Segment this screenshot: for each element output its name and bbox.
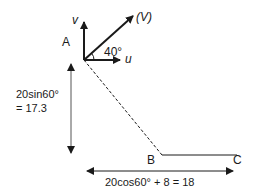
trajectory-dashed-line <box>84 60 162 155</box>
horizontal-dimension-label: 20cos60° + 8 = 18 <box>105 176 194 188</box>
V-vector-label: (V) <box>136 10 152 24</box>
v-vector-label: v <box>72 13 79 27</box>
u-vector-label: u <box>125 52 132 66</box>
point-a-label: A <box>62 35 70 49</box>
point-b-label: B <box>147 153 155 167</box>
angle-arc <box>92 53 94 60</box>
angle-label: 40° <box>104 45 122 59</box>
vertical-dimension-label-line2: = 17.3 <box>16 102 47 114</box>
velocity-diagram: A B C v u (V) 40° 20sin60° = 17.3 20cos6… <box>0 0 254 192</box>
vertical-dimension-label-line1: 20sin60° <box>16 88 59 100</box>
point-c-label: C <box>233 153 242 167</box>
